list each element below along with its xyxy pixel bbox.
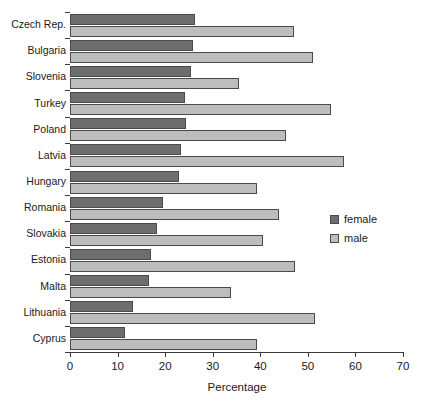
category-label: Bulgaria <box>2 45 66 56</box>
bar-male <box>70 26 294 37</box>
bar-male <box>70 183 257 194</box>
legend-item-male[interactable]: male <box>330 230 377 246</box>
y-tick <box>65 64 70 65</box>
female-swatch-icon <box>330 215 339 224</box>
bar-male <box>70 209 279 220</box>
x-tick <box>70 352 71 357</box>
bar-male <box>70 261 295 272</box>
y-tick <box>65 300 70 301</box>
x-tick-label: 50 <box>288 360 328 372</box>
bar-male <box>70 156 344 167</box>
bar-female <box>70 144 181 155</box>
bar-chart: Czech Rep.BulgariaSloveniaTurkeyPolandLa… <box>0 0 422 412</box>
bar-female <box>70 301 133 312</box>
legend-label-male: male <box>344 232 368 244</box>
x-tick-label: 10 <box>98 360 138 372</box>
x-tick <box>118 352 119 357</box>
legend-label-female: female <box>344 213 377 225</box>
category-label: Cyprus <box>2 333 66 344</box>
category-label: Estonia <box>2 254 66 265</box>
y-tick <box>65 274 70 275</box>
bar-male <box>70 313 315 324</box>
bar-female <box>70 40 193 51</box>
x-tick-label: 30 <box>193 360 233 372</box>
bar-female <box>70 14 195 25</box>
x-tick <box>403 352 404 357</box>
bar-rows <box>70 12 403 352</box>
bar-female <box>70 249 151 260</box>
y-tick <box>65 38 70 39</box>
y-tick <box>65 221 70 222</box>
bar-female <box>70 171 179 182</box>
bar-male <box>70 130 286 141</box>
bar-female <box>70 118 186 129</box>
x-tick <box>165 352 166 357</box>
x-tick-label: 20 <box>145 360 185 372</box>
y-tick <box>65 195 70 196</box>
legend-item-female[interactable]: female <box>330 211 377 227</box>
bar-female <box>70 92 185 103</box>
x-tick-label: 70 <box>383 360 422 372</box>
category-axis-labels: Czech Rep.BulgariaSloveniaTurkeyPolandLa… <box>0 12 66 352</box>
bar-female <box>70 327 125 338</box>
category-label: Slovakia <box>2 228 66 239</box>
y-tick <box>65 117 70 118</box>
y-tick <box>65 169 70 170</box>
x-tick <box>213 352 214 357</box>
category-label: Lithuania <box>2 307 66 318</box>
legend: female male <box>330 211 377 249</box>
x-axis-line <box>70 352 404 353</box>
bar-female <box>70 66 191 77</box>
x-tick-label: 0 <box>50 360 90 372</box>
bar-male <box>70 287 231 298</box>
category-label: Slovenia <box>2 71 66 82</box>
category-label: Turkey <box>2 98 66 109</box>
y-tick <box>65 143 70 144</box>
male-swatch-icon <box>330 234 339 243</box>
category-label: Romania <box>2 202 66 213</box>
y-tick <box>65 247 70 248</box>
x-tick <box>308 352 309 357</box>
bar-male <box>70 52 313 63</box>
y-tick <box>65 326 70 327</box>
x-tick-label: 60 <box>335 360 375 372</box>
plot-area <box>70 12 403 352</box>
category-label: Czech Rep. <box>2 19 66 30</box>
y-tick <box>65 90 70 91</box>
y-tick <box>65 12 70 13</box>
bar-male <box>70 339 257 350</box>
bar-female <box>70 223 157 234</box>
x-tick-label: 40 <box>240 360 280 372</box>
x-tick <box>355 352 356 357</box>
x-tick <box>260 352 261 357</box>
bar-male <box>70 78 239 89</box>
category-label: Hungary <box>2 176 66 187</box>
x-axis-title: Percentage <box>70 381 404 393</box>
bar-male <box>70 235 263 246</box>
category-label: Poland <box>2 124 66 135</box>
category-label: Latvia <box>2 150 66 161</box>
bar-female <box>70 197 163 208</box>
bar-male <box>70 104 331 115</box>
bar-female <box>70 275 149 286</box>
category-label: Malta <box>2 281 66 292</box>
